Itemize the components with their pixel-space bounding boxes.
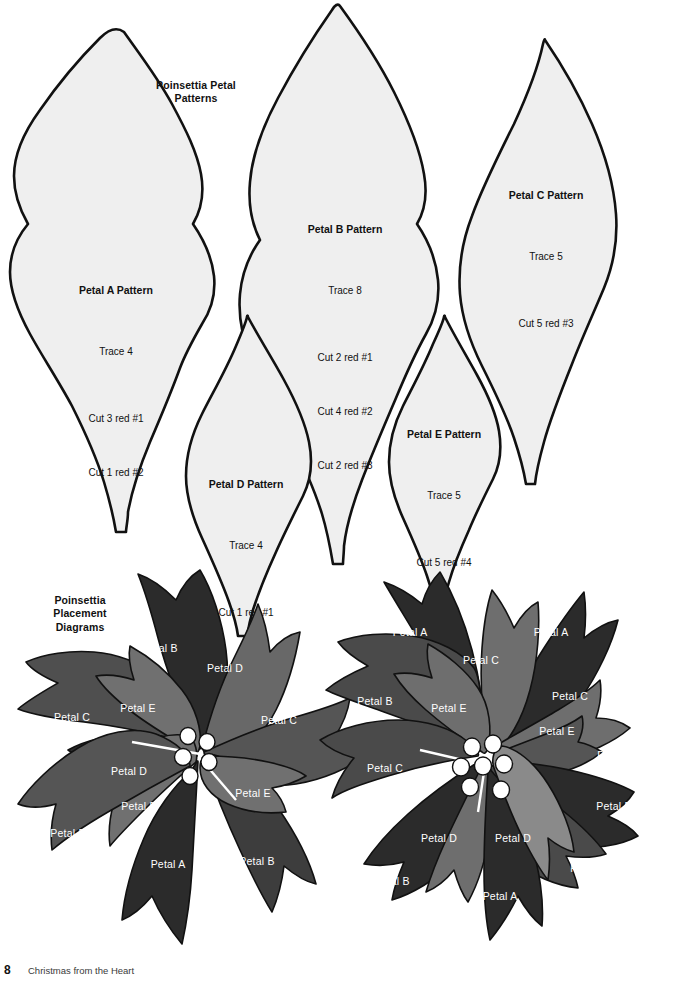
left-stamen-5 — [182, 768, 198, 785]
footer-book-title: Christmas from the Heart — [28, 965, 134, 976]
page-canvas: Petal A Pattern Trace 4 Cut 3 red #1 Cut… — [0, 0, 683, 981]
left-stamen-2 — [199, 734, 215, 751]
left-petal-label: Petal E — [235, 787, 270, 799]
left-petal-label: Petal E — [120, 702, 155, 714]
right-petal-label: Petal A — [534, 626, 569, 638]
right-petal-label: Petal C — [552, 690, 588, 702]
left-stamen-1 — [180, 728, 196, 745]
right-stamen-2 — [485, 735, 502, 753]
placement-diagrams-layer — [0, 0, 683, 981]
right-petal-label: Petal A — [483, 890, 518, 902]
left-poinsettia-diagram — [18, 570, 368, 944]
right-petal-label: Petal B — [357, 695, 392, 707]
left-petal-label: Petal D — [207, 662, 243, 674]
right-stamen-3 — [453, 758, 470, 776]
right-petal-label: Petal D — [495, 832, 531, 844]
left-petal-label: Petal A — [151, 858, 186, 870]
right-petal-label: Petal C — [463, 654, 499, 666]
right-stamen-4 — [475, 757, 492, 775]
left-petal-label: Petal B — [142, 642, 177, 654]
right-petal-label: Petal E — [539, 725, 574, 737]
left-petal-label: Petal B — [50, 827, 85, 839]
right-petal-label: Petal E — [431, 702, 466, 714]
page-footer: 8 Christmas from the Heart — [0, 957, 683, 977]
right-petal-label: Petal B — [597, 749, 632, 761]
left-stamen-3 — [175, 749, 192, 766]
right-stamen-6 — [462, 778, 479, 796]
right-stamen-1 — [464, 738, 481, 756]
left-petal-label: Petal D — [111, 765, 147, 777]
right-stamen-7 — [493, 781, 510, 799]
left-petal-label: Petal E — [121, 800, 156, 812]
footer-page-number: 8 — [4, 963, 11, 977]
right-petal-label: Petal B — [570, 862, 605, 874]
right-petal-label: Petal B — [596, 800, 631, 812]
right-petal-label: Petal C — [367, 762, 403, 774]
left-petal-label: Petal C — [54, 711, 90, 723]
right-stamen-5 — [496, 755, 513, 773]
left-stamen-4 — [201, 754, 217, 771]
left-petal-label: Petal B — [239, 855, 274, 867]
left-petal-label: Petal C — [261, 714, 297, 726]
right-petal-label: Petal B — [374, 875, 409, 887]
right-petal-label: Petal D — [421, 832, 457, 844]
right-poinsettia-diagram — [320, 572, 638, 940]
right-petal-label: Petal A — [393, 626, 428, 638]
